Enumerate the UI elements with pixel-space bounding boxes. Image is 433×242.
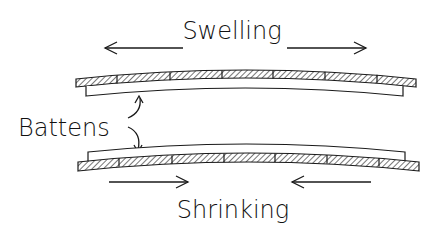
battens-leader <box>128 96 143 152</box>
shrinking-arrow-right <box>109 176 188 188</box>
battens-label: Battens <box>18 114 110 142</box>
shrinking-label: Shrinking <box>177 196 289 224</box>
top-board <box>76 70 416 87</box>
swelling-label: Swelling <box>182 17 281 45</box>
swelling-arrow-right <box>287 42 366 54</box>
swelling-arrow-left <box>105 42 183 54</box>
top-batten <box>86 86 403 96</box>
shrinking-arrow-left <box>292 176 371 188</box>
wood-movement-diagram: Swelling Battens <box>0 0 433 242</box>
